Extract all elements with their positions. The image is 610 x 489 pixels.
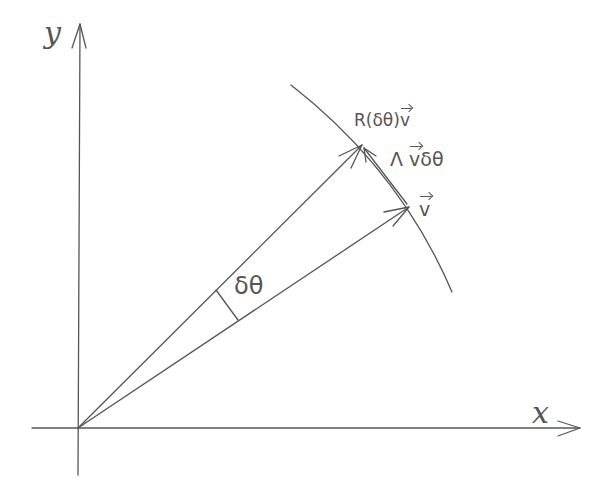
y-axis-label: y bbox=[44, 18, 61, 48]
rotated-vector-label-prefix: R(δθ) bbox=[354, 110, 400, 130]
difference-vector-label-vec: v bbox=[409, 150, 420, 169]
y-axis bbox=[72, 24, 86, 475]
v-vector-label-vec: v bbox=[419, 200, 430, 219]
v-vector-label: v bbox=[419, 200, 430, 219]
x-axis bbox=[32, 421, 580, 436]
difference-vector-label-suffix: δθ bbox=[420, 148, 443, 170]
angle-label: δθ bbox=[234, 274, 263, 298]
vector-v bbox=[78, 207, 409, 428]
rotated-vector-label: R(δθ)v bbox=[354, 112, 410, 129]
rotated-vector-label-vec: v bbox=[400, 112, 410, 129]
y-axis-arrowhead-icon bbox=[72, 24, 86, 48]
diagram-canvas bbox=[0, 0, 610, 489]
vector-rotated bbox=[78, 145, 362, 428]
x-axis-label: x bbox=[532, 398, 549, 428]
difference-vector-label: Λ vδθ bbox=[390, 150, 444, 169]
difference-vector-label-prefix: Λ bbox=[390, 148, 403, 170]
